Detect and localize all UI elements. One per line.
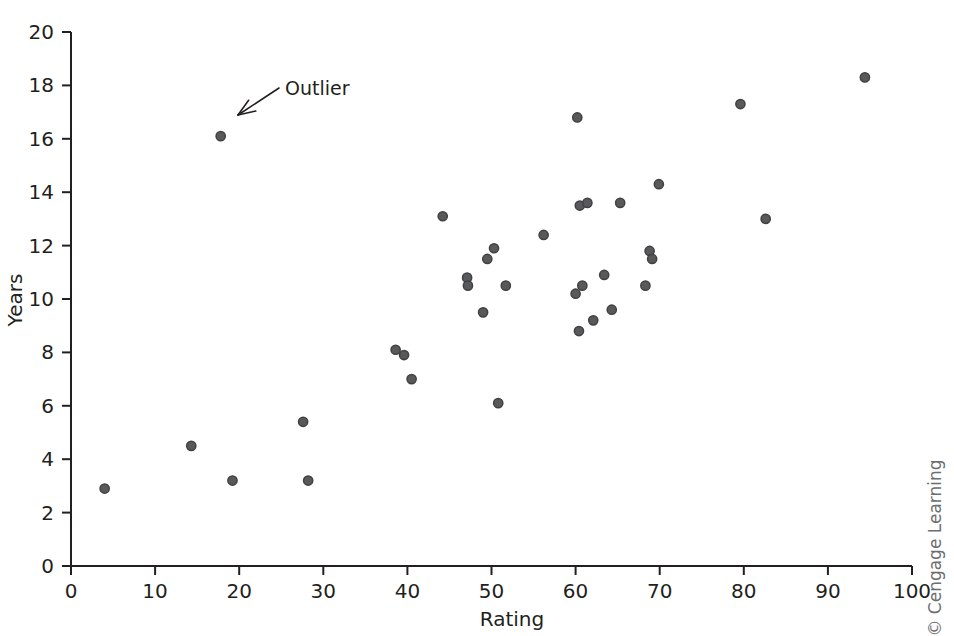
y-tick-label: 18	[29, 73, 54, 97]
data-point	[571, 289, 580, 298]
y-tick-label: 8	[41, 340, 54, 364]
data-point	[573, 113, 582, 122]
x-tick-label: 90	[815, 579, 840, 603]
data-point	[304, 476, 313, 485]
y-tick-label: 6	[41, 394, 54, 418]
data-point	[574, 326, 583, 335]
y-tick-label: 12	[29, 234, 54, 258]
axes	[71, 32, 912, 566]
y-axis-tick-labels: 02468101214161820	[29, 20, 54, 578]
data-point	[607, 305, 616, 314]
data-point	[489, 244, 498, 253]
annotation-arrow-shaft	[238, 88, 279, 115]
y-tick-label: 10	[29, 287, 54, 311]
watermark: © Cengage Learning	[925, 459, 945, 636]
data-point	[761, 214, 770, 223]
x-tick-label: 20	[226, 579, 251, 603]
y-tick-label: 4	[41, 447, 54, 471]
y-axis-title: Years	[3, 274, 27, 328]
data-point	[654, 180, 663, 189]
data-point	[463, 281, 472, 290]
x-tick-label: 40	[395, 579, 420, 603]
data-point	[438, 212, 447, 221]
data-point	[616, 198, 625, 207]
data-point	[578, 281, 587, 290]
y-tick-label: 20	[29, 20, 54, 44]
x-tick-label: 30	[311, 579, 336, 603]
data-point	[299, 417, 308, 426]
data-point	[399, 350, 408, 359]
data-point	[583, 198, 592, 207]
data-point	[407, 375, 416, 384]
data-point	[228, 476, 237, 485]
data-point	[600, 270, 609, 279]
data-point	[478, 308, 487, 317]
y-tick-label: 0	[41, 554, 54, 578]
x-tick-label: 80	[731, 579, 756, 603]
x-tick-label: 70	[647, 579, 672, 603]
data-point	[187, 441, 196, 450]
scatter-plot: 0102030405060708090100 02468101214161820…	[0, 0, 954, 636]
y-tick-label: 16	[29, 127, 54, 151]
data-point	[216, 132, 225, 141]
y-tick-label: 2	[41, 501, 54, 525]
x-axis-title: Rating	[480, 607, 544, 631]
data-point	[483, 254, 492, 263]
tick-marks	[62, 32, 912, 575]
x-tick-label: 10	[142, 579, 167, 603]
data-point	[539, 230, 548, 239]
x-tick-label: 50	[479, 579, 504, 603]
chart-page: 0102030405060708090100 02468101214161820…	[0, 0, 954, 636]
data-point	[100, 484, 109, 493]
data-point	[736, 99, 745, 108]
data-points	[100, 73, 869, 493]
x-tick-label: 60	[563, 579, 588, 603]
data-point	[589, 316, 598, 325]
data-point	[641, 281, 650, 290]
data-point	[860, 73, 869, 82]
annotation-label: Outlier	[285, 77, 350, 99]
y-tick-label: 14	[29, 180, 54, 204]
data-point	[391, 345, 400, 354]
annotations: Outlier	[238, 77, 350, 115]
x-axis-tick-labels: 0102030405060708090100	[65, 579, 931, 603]
data-point	[648, 254, 657, 263]
data-point	[501, 281, 510, 290]
data-point	[494, 399, 503, 408]
x-tick-label: 0	[65, 579, 78, 603]
